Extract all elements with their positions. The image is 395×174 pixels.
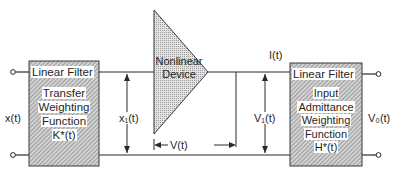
left-filter-line-3: Function bbox=[41, 115, 87, 127]
nonlinear-line-2: Device bbox=[161, 68, 197, 80]
left-filter-line-1: Transfer bbox=[42, 87, 86, 99]
right-filter-line-3: Weighting bbox=[301, 114, 352, 126]
x1-signal-label: x₁(t) bbox=[118, 112, 140, 124]
right-filter-line-1: Input bbox=[313, 87, 339, 99]
input-signal-label: x(t) bbox=[5, 112, 21, 124]
left-filter-line-2: Weighting bbox=[38, 101, 91, 113]
current-signal-label: I(t) bbox=[269, 49, 282, 61]
left-filter-title: Linear Filter bbox=[31, 66, 94, 78]
v-voltage-arrow bbox=[154, 139, 236, 150]
right-filter-line-5: H*(t) bbox=[314, 141, 339, 153]
output-signal-label: V₀(t) bbox=[368, 112, 390, 124]
left-filter-description: Transfer Weighting Function K*(t) bbox=[29, 86, 99, 142]
right-filter-line-4: Function bbox=[304, 128, 348, 140]
right-filter-line-2: Admittance bbox=[297, 101, 354, 113]
right-filter-title: Linear Filter bbox=[292, 68, 355, 80]
nonlinear-line-1: Nonlinear bbox=[154, 55, 203, 67]
nonlinear-device-label: Nonlinear Device bbox=[154, 55, 204, 81]
left-filter-line-4: K*(t) bbox=[52, 129, 77, 141]
v1-signal-label: V₁(t) bbox=[253, 112, 276, 124]
v-signal-label: V(t) bbox=[169, 139, 189, 151]
right-filter-description: Input Admittance Weighting Function H*(t… bbox=[290, 87, 362, 155]
